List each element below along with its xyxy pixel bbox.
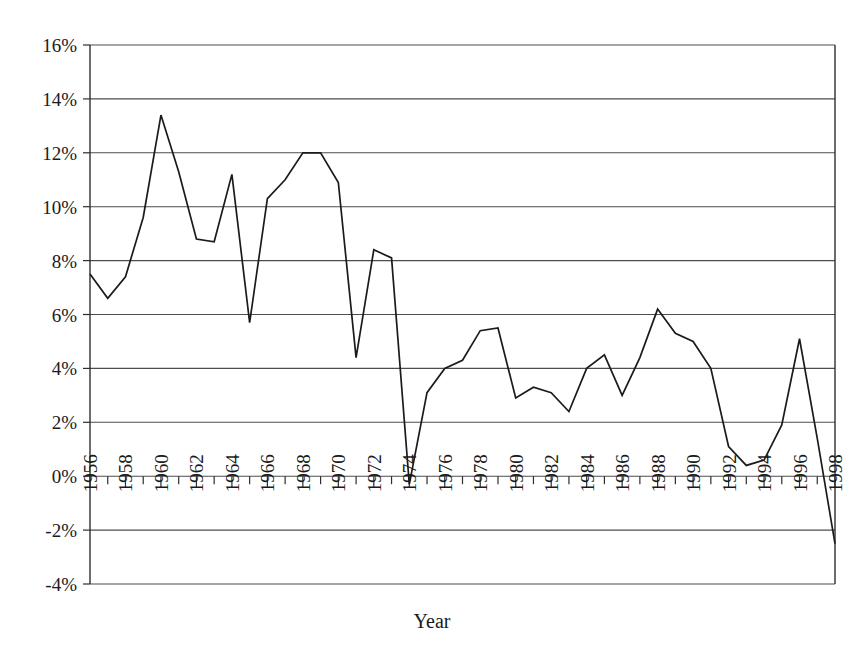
- y-tick-label: 12%: [42, 143, 77, 164]
- x-tick-label: 1986: [612, 454, 633, 492]
- y-tick-label: 2%: [52, 412, 78, 433]
- chart-container: 16%14%12%10%8%6%4%2%0%-2%-4% 19561958196…: [0, 0, 862, 662]
- x-tick-label: 1976: [435, 454, 456, 492]
- y-tick-label: 10%: [42, 197, 77, 218]
- x-tick-label: 1974: [399, 454, 420, 493]
- x-tick-label: 1978: [470, 454, 491, 492]
- x-tick-label: 1964: [222, 454, 243, 493]
- x-tick-label: 1980: [506, 454, 527, 492]
- x-tick-label: 1972: [364, 454, 385, 492]
- y-axis-ticks: [83, 45, 90, 584]
- x-tick-label: 1992: [719, 454, 740, 492]
- x-tick-label: 1962: [186, 454, 207, 492]
- y-tick-label: 6%: [52, 305, 78, 326]
- x-tick-label: 1990: [683, 454, 704, 492]
- x-axis-tick-labels: 1956195819601962196419661968197019721974…: [80, 454, 846, 493]
- x-tick-label: 1968: [293, 454, 314, 492]
- x-tick-label: 1960: [151, 454, 172, 492]
- x-tick-label: 1984: [577, 454, 598, 493]
- y-tick-label: -4%: [45, 574, 77, 595]
- y-tick-label: 14%: [42, 89, 77, 110]
- y-tick-label: 8%: [52, 251, 78, 272]
- x-tick-label: 1996: [790, 454, 811, 492]
- x-tick-label: 1998: [825, 454, 846, 492]
- x-tick-label: 1958: [115, 454, 136, 492]
- x-tick-label: 1966: [257, 454, 278, 492]
- x-tick-label: 1988: [648, 454, 669, 492]
- x-tick-label: 1956: [80, 454, 101, 492]
- x-tick-label: 1982: [541, 454, 562, 492]
- y-tick-label: -2%: [45, 520, 77, 541]
- y-tick-label: 16%: [42, 35, 77, 56]
- y-axis-tick-labels: 16%14%12%10%8%6%4%2%0%-2%-4%: [42, 35, 77, 595]
- gridlines: [90, 45, 835, 584]
- y-tick-label: 0%: [52, 466, 78, 487]
- line-chart: 16%14%12%10%8%6%4%2%0%-2%-4% 19561958196…: [0, 0, 862, 662]
- y-tick-label: 4%: [52, 358, 78, 379]
- x-tick-label: 1970: [328, 454, 349, 492]
- x-axis-title: Year: [414, 610, 451, 632]
